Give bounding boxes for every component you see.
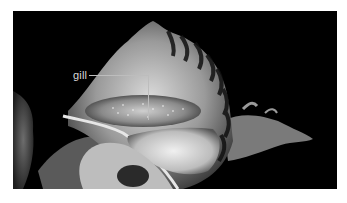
gill <box>85 95 201 127</box>
snail-photo: gill <box>13 11 337 189</box>
snail-tail <box>223 115 313 161</box>
gill-label: gill <box>73 69 87 81</box>
snail-illustration <box>13 11 337 189</box>
rock-left <box>13 91 34 189</box>
gill-leader-horizontal <box>89 75 149 76</box>
gill-leader-vertical <box>148 75 149 120</box>
